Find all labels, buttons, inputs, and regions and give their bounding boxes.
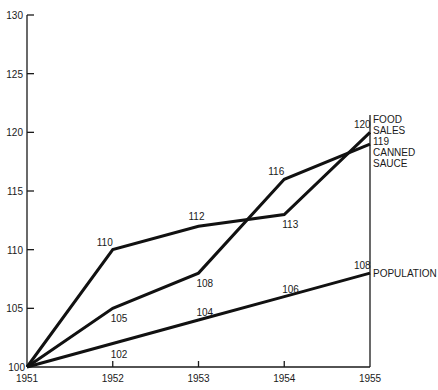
y-tick-label: 120	[6, 127, 23, 138]
series-end-label: SAUCE	[373, 158, 408, 169]
y-tick-label: 100	[8, 362, 25, 373]
series-lines	[27, 132, 370, 367]
data-label: 120	[354, 119, 371, 130]
series-end-label: FOOD	[373, 114, 402, 125]
axes: 1051101151201251301001951195219531954195…	[6, 10, 381, 384]
series-line-canned-sauce	[27, 144, 370, 367]
x-tick-label: 1955	[359, 373, 382, 384]
data-label: 102	[111, 349, 128, 360]
data-label: 106	[282, 284, 299, 295]
x-tick-label: 1954	[273, 373, 296, 384]
x-tick-label: 1953	[187, 373, 210, 384]
data-label: 116	[268, 166, 284, 177]
data-label: 112	[189, 211, 205, 222]
y-tick-label: 115	[7, 186, 23, 197]
series-end-label: CANNED	[373, 147, 415, 158]
data-label: 105	[111, 313, 128, 324]
data-label: 108	[354, 260, 371, 271]
data-label: 113	[282, 219, 298, 230]
y-tick-label: 125	[6, 69, 23, 80]
y-tick-label: 105	[6, 303, 23, 314]
series-end-label: 119	[373, 136, 389, 147]
series-end-label: POPULATION	[373, 268, 437, 279]
series-end-label: SALES	[373, 125, 406, 136]
y-tick-label: 110	[7, 245, 23, 256]
y-tick-label: 130	[6, 10, 23, 21]
x-tick-label: 1951	[16, 373, 39, 384]
line-chart: 1051101151201251301001951195219531954195…	[0, 0, 438, 390]
data-label: 108	[197, 278, 214, 289]
x-tick-label: 1952	[102, 373, 125, 384]
data-label: 110	[97, 237, 113, 248]
data-label: 104	[197, 307, 214, 318]
data-labels: 110112113120105108116102104106108FOODSAL…	[97, 114, 437, 360]
